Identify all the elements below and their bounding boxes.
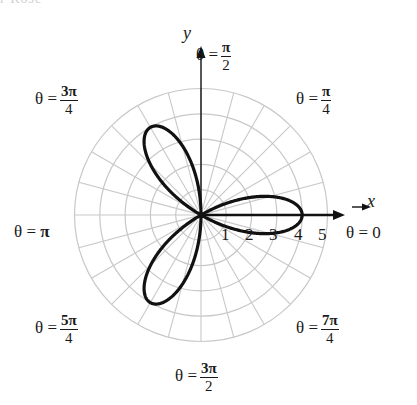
radial-tick-1: 1: [221, 226, 230, 243]
fraction-denominator: 4: [322, 101, 330, 117]
fraction-numerator: 7π: [321, 313, 339, 330]
fraction-numerator: π: [221, 40, 231, 57]
radial-tick-2: 2: [245, 226, 254, 243]
angle-label-7pi-over-4: θ =7π4: [296, 313, 339, 346]
angle-label-zero: θ = 0: [346, 224, 381, 241]
angle-label-pi-over-4: θ =π4: [296, 84, 331, 117]
fraction-numerator: 3π: [200, 361, 218, 378]
fraction-numerator: 3π: [60, 84, 78, 101]
grid-radial-line: [204, 220, 264, 324]
angle-lhs: θ =: [196, 45, 218, 64]
radial-tick-5: 5: [318, 226, 327, 243]
angle-lhs: θ =: [14, 222, 36, 241]
angle-label-3pi-over-4: θ =3π4: [35, 84, 78, 117]
angle-value: 0: [372, 223, 381, 242]
fraction-denominator: 4: [326, 330, 334, 346]
angle-lhs: θ =: [35, 89, 57, 108]
angle-lhs: θ =: [35, 318, 57, 337]
angle-lhs: θ =: [346, 223, 368, 242]
x-axis-arrowhead: [333, 210, 345, 220]
x-axis-label: x: [367, 192, 375, 210]
fraction-denominator: 4: [65, 101, 73, 117]
angle-label-pi-over-2: θ =π2: [196, 40, 231, 73]
grid-radial-line: [91, 218, 195, 278]
fraction-denominator: 4: [65, 330, 73, 346]
angle-label-5pi-over-4: θ =5π4: [35, 313, 78, 346]
fraction-denominator: 2: [205, 378, 213, 394]
fraction-numerator: π: [321, 84, 331, 101]
fraction-denominator: 2: [222, 57, 230, 73]
angle-lhs: θ =: [175, 366, 197, 385]
angle-lhs: θ =: [296, 318, 318, 337]
grid-radial-line: [91, 152, 195, 212]
radial-tick-3: 3: [269, 226, 278, 243]
radial-tick-4: 4: [294, 226, 303, 243]
grid-radial-line: [204, 105, 264, 209]
fraction-numerator: 5π: [60, 313, 78, 330]
angle-label-3pi-over-2: θ =3π2: [175, 361, 218, 394]
angle-label-pi: θ = π: [14, 223, 50, 240]
angle-lhs: θ =: [296, 89, 318, 108]
angle-value: π: [40, 222, 49, 241]
y-axis-label: y: [183, 24, 191, 42]
grid-radial-line: [203, 93, 234, 209]
